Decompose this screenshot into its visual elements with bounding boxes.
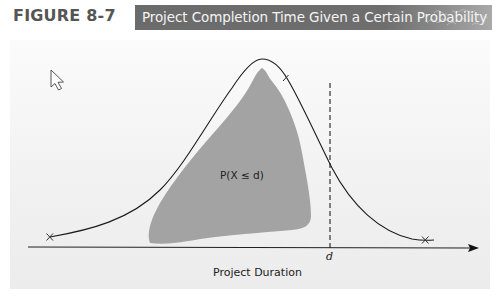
threshold-label: d bbox=[326, 250, 333, 263]
x-axis-line bbox=[28, 247, 470, 248]
shaded-probability-region bbox=[149, 68, 311, 244]
mouse-pointer-icon bbox=[51, 70, 64, 90]
shaded-region-label: P(X ≤ d) bbox=[220, 169, 264, 181]
x-axis-label: Project Duration bbox=[213, 266, 302, 279]
probability-distribution-diagram bbox=[0, 0, 504, 306]
